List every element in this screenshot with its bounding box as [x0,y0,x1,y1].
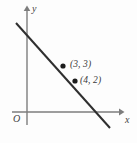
coordinate-plane-figure: y x O (3, 3) (4, 2) [0,0,137,143]
y-axis-label: y [32,4,36,14]
point-label-3-3: (3, 3) [70,60,91,70]
x-axis [12,109,125,116]
x-axis-label: x [125,115,129,125]
x-axis-arrowhead [119,109,125,116]
origin-label: O [13,114,20,124]
point-label-4-2: (4, 2) [80,76,101,86]
y-axis-arrowhead [24,6,31,12]
data-point-marker-1 [60,63,65,68]
y-axis [24,6,31,126]
figure-canvas [0,0,137,143]
data-point-marker-2 [72,78,77,83]
